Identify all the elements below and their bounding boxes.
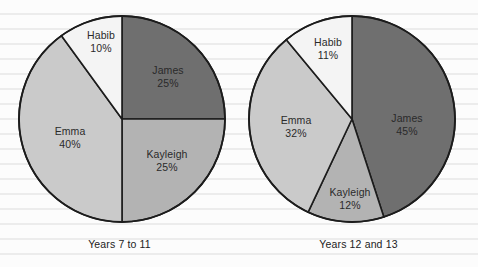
chart-caption-1: Years 7 to 11 <box>0 238 239 250</box>
pie-slice-kayleigh[interactable] <box>122 119 225 222</box>
pie-svg <box>239 0 478 240</box>
pie-slice-james[interactable] <box>122 16 225 119</box>
pie-charts-container: James25%Kayleigh25%Emma40%Habib10%Years … <box>0 0 478 267</box>
chart-caption-2: Years 12 and 13 <box>239 238 478 250</box>
pie-chart-2: James45%Kayleigh12%Emma32%Habib11%Years … <box>239 0 478 267</box>
pie-svg <box>0 0 239 240</box>
pie-chart-1: James25%Kayleigh25%Emma40%Habib10%Years … <box>0 0 239 267</box>
